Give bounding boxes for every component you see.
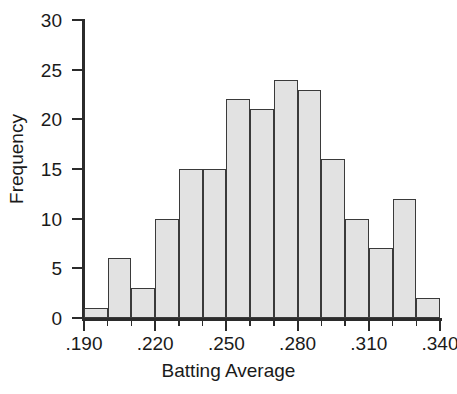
histogram-bar	[226, 99, 250, 318]
histogram-figure: Frequency 051015202530 .190.220.250.280.…	[0, 0, 457, 394]
histogram-bar	[203, 169, 227, 318]
y-tick-mark	[72, 267, 83, 269]
x-minor-tick-mark	[131, 320, 133, 326]
x-tick-label: .250	[208, 333, 245, 355]
x-minor-tick-mark	[344, 320, 346, 326]
y-tick-label: 0	[32, 309, 62, 328]
x-minor-tick-mark	[321, 320, 323, 326]
histogram-bar	[274, 80, 298, 318]
y-tick-mark	[72, 317, 83, 319]
y-axis-tick-labels: 051015202530	[28, 0, 62, 394]
x-axis-title: Batting Average	[0, 360, 457, 382]
y-tick-mark	[72, 69, 83, 71]
y-tick-mark	[72, 218, 83, 220]
x-tick-label: .220	[137, 333, 174, 355]
x-tick-mark	[368, 320, 370, 331]
y-tick-mark	[72, 19, 83, 21]
x-minor-tick-mark	[273, 320, 275, 326]
histogram-bar	[108, 258, 132, 318]
histogram-bar	[321, 159, 345, 318]
y-tick-mark	[72, 168, 83, 170]
y-axis-title-text: Frequency	[6, 114, 28, 204]
histogram-bar	[345, 219, 369, 318]
x-tick-mark	[439, 320, 441, 331]
x-tick-mark	[225, 320, 227, 331]
y-tick-label: 5	[32, 259, 62, 278]
x-tick-label: .280	[279, 333, 316, 355]
y-tick-label: 30	[32, 11, 62, 30]
x-tick-mark	[297, 320, 299, 331]
histogram-bar	[250, 109, 274, 318]
x-tick-mark	[154, 320, 156, 331]
histogram-bar	[369, 248, 393, 318]
y-tick-label: 15	[32, 160, 62, 179]
histogram-bar	[416, 298, 440, 318]
x-tick-mark	[83, 320, 85, 331]
y-tick-label: 20	[32, 110, 62, 129]
x-minor-tick-mark	[416, 320, 418, 326]
y-tick-label: 10	[32, 209, 62, 228]
histogram-bar	[179, 169, 203, 318]
x-minor-tick-mark	[107, 320, 109, 326]
x-minor-tick-mark	[392, 320, 394, 326]
histogram-bar	[298, 90, 322, 318]
x-tick-label: .190	[66, 333, 103, 355]
plot-area	[84, 20, 440, 318]
x-axis-line	[82, 318, 442, 321]
x-tick-label: .310	[350, 333, 387, 355]
histogram-bar	[131, 288, 155, 318]
x-minor-tick-mark	[178, 320, 180, 326]
histogram-bar	[84, 308, 108, 318]
x-minor-tick-mark	[202, 320, 204, 326]
x-tick-label: .340	[422, 333, 457, 355]
histogram-bar	[155, 219, 179, 318]
y-tick-label: 25	[32, 60, 62, 79]
x-minor-tick-mark	[249, 320, 251, 326]
histogram-bar	[393, 199, 417, 318]
y-tick-mark	[72, 118, 83, 120]
